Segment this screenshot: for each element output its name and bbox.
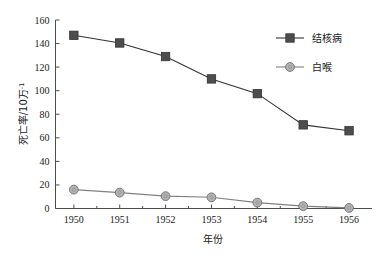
line-chart: 020406080100120140160 195019511952195319…: [0, 0, 387, 257]
x-axis-title: 年份: [203, 233, 223, 245]
y-tick-label: 20: [40, 179, 50, 190]
y-tick-label: 100: [35, 85, 50, 96]
data-point-marker: [70, 31, 78, 39]
y-axis-tick-labels: 020406080100120140160: [35, 15, 50, 215]
y-axis-title-sup: -1: [18, 83, 26, 89]
x-tick-label: 1956: [339, 214, 359, 225]
legend-item-2[interactable]: 白喉: [276, 61, 332, 73]
y-tick-label: 80: [40, 109, 50, 120]
legend-marker-square: [286, 34, 294, 42]
chart-canvas: 020406080100120140160 195019511952195319…: [0, 0, 387, 257]
y-tick-label: 60: [40, 132, 50, 143]
data-point-marker: [345, 204, 354, 213]
series-group: [69, 31, 353, 212]
data-point-marker: [345, 127, 353, 135]
data-point-marker: [253, 198, 262, 207]
data-point-marker: [161, 192, 170, 201]
x-axis-tick-labels: 1950195119521953195419551956: [64, 214, 359, 225]
data-point-marker: [207, 75, 215, 83]
data-point-marker: [115, 188, 124, 197]
x-tick-label: 1951: [110, 214, 130, 225]
legend: 结核病白喉: [276, 32, 342, 73]
y-axis-title: 死亡率/10万-1: [17, 83, 29, 146]
x-tick-label: 1954: [247, 214, 267, 225]
legend-label: 白喉: [312, 61, 332, 73]
y-axis-title-main: 死亡率/10万: [17, 89, 29, 145]
y-tick-label: 0: [45, 203, 50, 214]
y-tick-label: 120: [35, 62, 50, 73]
x-tick-label: 1952: [156, 214, 176, 225]
y-tick-label: 160: [35, 15, 50, 26]
x-tick-label: 1950: [64, 214, 84, 225]
y-tick-label: 140: [35, 38, 50, 49]
data-point-marker: [69, 185, 78, 194]
svg-text:死亡率/10万-1: 死亡率/10万-1: [17, 83, 29, 146]
series-1: [70, 31, 354, 135]
x-tick-label: 1955: [293, 214, 313, 225]
y-tick-label: 40: [40, 156, 50, 167]
y-axis-ticks: [56, 20, 60, 209]
data-point-marker: [299, 121, 307, 129]
legend-marker-circle: [286, 63, 295, 72]
data-point-marker: [253, 89, 261, 97]
data-point-marker: [161, 52, 169, 60]
legend-label: 结核病: [312, 32, 342, 44]
x-tick-label: 1953: [201, 214, 221, 225]
data-point-marker: [116, 39, 124, 47]
data-point-marker: [207, 193, 216, 202]
axis-lines: [56, 20, 373, 209]
legend-item-1[interactable]: 结核病: [276, 32, 342, 44]
data-point-marker: [299, 202, 308, 211]
